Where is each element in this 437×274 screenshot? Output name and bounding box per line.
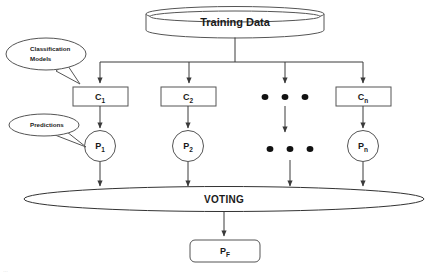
node-classifier-c1: C1 [73, 87, 128, 106]
callout-classification-models-line2: Models [30, 55, 52, 62]
node-classifier-c2: C2 [161, 87, 216, 106]
callout-predictions-line1: Predictions [30, 121, 64, 128]
node-prediction-p1: P1 [85, 131, 116, 162]
callout-predictions: Predictions [9, 114, 86, 147]
figure-caption: … [3, 267, 203, 274]
node-training-data: Training Data [146, 7, 324, 39]
node-final-prediction: PF [190, 240, 260, 262]
diagram-canvas: Training Data C1 C2 Cn [0, 0, 437, 274]
connector-prediction-to-voting [100, 160, 363, 186]
connector-classifier-to-prediction [100, 106, 363, 132]
training-data-label: Training Data [200, 16, 271, 28]
connector-bus-top [100, 38, 363, 84]
callout-classification-models-line1: Classification [30, 45, 70, 52]
ensemble-voting-diagram: Training Data C1 C2 Cn [0, 0, 437, 274]
callout-classification-models: Classification Models [6, 38, 86, 84]
ellipsis-prediction-row [267, 146, 314, 152]
node-prediction-p2: P2 [173, 131, 204, 162]
voting-label: VOTING [204, 194, 244, 205]
node-classifier-cn: Cn [336, 87, 391, 106]
node-voting: VOTING [24, 187, 424, 212]
node-prediction-pn: Pn [348, 131, 379, 162]
ellipsis-classifier-row [262, 94, 309, 100]
